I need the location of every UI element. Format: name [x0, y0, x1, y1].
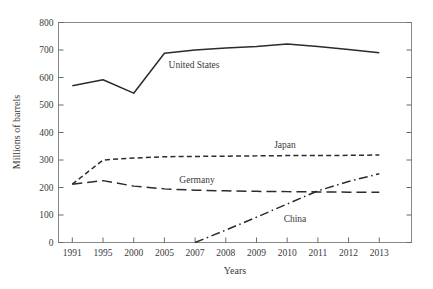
x-tick-label: 2007: [186, 248, 205, 258]
series-label-japan: Japan: [274, 140, 296, 150]
x-tick-label: 2010: [278, 248, 297, 258]
y-tick-label: 700: [39, 45, 54, 55]
chart-background: [0, 0, 433, 289]
y-tick-label: 100: [39, 210, 54, 220]
y-axis-tick-labels: 0100200300400500600700800: [39, 18, 54, 248]
x-tick-label: 1995: [94, 248, 113, 258]
line-chart-figure: 0100200300400500600700800 19911995200020…: [0, 0, 433, 289]
x-tick-label: 1991: [63, 248, 82, 258]
y-tick-label: 400: [39, 128, 54, 138]
y-tick-label: 600: [39, 73, 54, 83]
x-tick-label: 2000: [124, 248, 143, 258]
series-label-germany: Germany: [179, 175, 215, 185]
y-tick-label: 500: [39, 100, 54, 110]
x-tick-label: 2013: [370, 248, 389, 258]
x-tick-label: 2009: [247, 248, 266, 258]
x-tick-label: 2008: [216, 248, 235, 258]
y-tick-label: 0: [49, 238, 54, 248]
series-label-china: China: [284, 214, 307, 224]
chart-canvas: 0100200300400500600700800 19911995200020…: [0, 0, 433, 289]
x-axis-title: Years: [224, 265, 246, 276]
x-tick-label: 2012: [339, 248, 358, 258]
y-axis-title: Millions of barrels: [11, 95, 22, 170]
y-tick-label: 300: [39, 155, 54, 165]
y-tick-label: 800: [39, 18, 54, 28]
x-tick-label: 2005: [155, 248, 174, 258]
series-label-united-states: United States: [169, 60, 220, 70]
x-axis-tick-labels: 1991199520002005200720082009201020112012…: [63, 248, 389, 258]
x-tick-label: 2011: [309, 248, 328, 258]
y-tick-label: 200: [39, 183, 54, 193]
